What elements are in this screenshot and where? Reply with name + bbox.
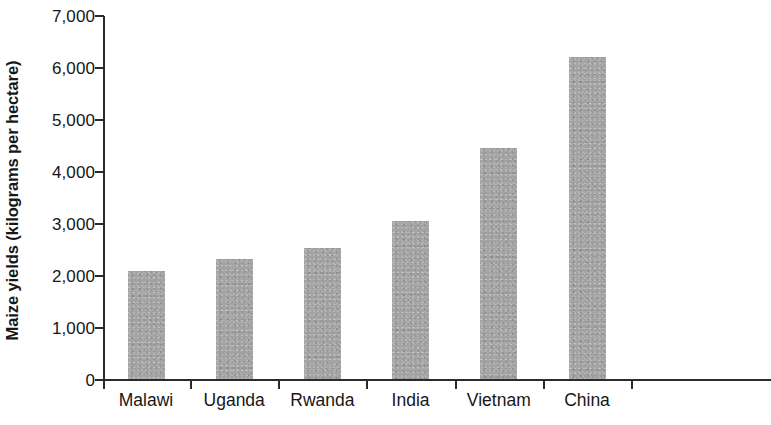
y-axis-tick — [95, 327, 104, 329]
bar — [392, 221, 429, 379]
y-axis-tick-label: 3,000 — [25, 216, 95, 233]
y-axis-tick-label: 7,000 — [25, 8, 95, 25]
y-axis-tick — [95, 119, 104, 121]
x-axis-tick — [366, 380, 368, 389]
x-axis-tick — [543, 380, 545, 389]
x-axis-tick-label: Rwanda — [290, 392, 354, 410]
x-axis-tick-label: India — [392, 392, 430, 410]
x-axis-origin-tick — [103, 380, 105, 389]
y-axis-tick — [95, 67, 104, 69]
bar — [480, 148, 517, 379]
y-axis-tick-labels: 01,0002,0003,0004,0005,0006,0007,000 — [20, 16, 95, 380]
x-axis-tick-label: Vietnam — [467, 392, 531, 410]
y-axis-tick — [95, 223, 104, 225]
x-axis-line — [103, 379, 771, 381]
x-axis-tick — [190, 380, 192, 389]
bar-chart: Maize yields (kilograms per hectare) 01,… — [0, 0, 771, 425]
y-axis-tick — [95, 275, 104, 277]
y-axis-line — [103, 16, 105, 380]
x-axis-tick — [455, 380, 457, 389]
x-axis-tick-label: Malawi — [119, 392, 173, 410]
y-axis-tick-label: 2,000 — [25, 268, 95, 285]
plot-area — [103, 16, 771, 380]
y-axis-tick — [95, 15, 104, 17]
y-axis-tick-label: 6,000 — [25, 60, 95, 77]
y-axis-tick-label: 0 — [25, 372, 95, 389]
bar — [216, 259, 253, 379]
x-axis-tick-label: China — [564, 392, 610, 410]
bar — [128, 271, 165, 379]
x-axis-tick-label: Uganda — [204, 392, 265, 410]
bar — [304, 248, 341, 379]
x-axis-tick — [631, 380, 633, 389]
y-axis-tick-label: 5,000 — [25, 112, 95, 129]
y-axis-tick-label: 1,000 — [25, 320, 95, 337]
bar — [569, 57, 606, 379]
y-axis-tick — [95, 171, 104, 173]
y-axis-tick-label: 4,000 — [25, 164, 95, 181]
x-axis-tick — [278, 380, 280, 389]
